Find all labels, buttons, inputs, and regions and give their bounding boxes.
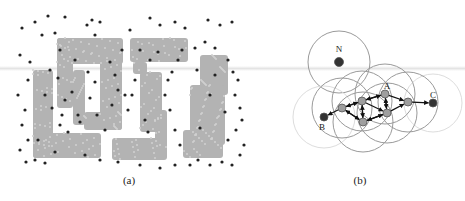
directed-edge <box>391 104 404 111</box>
noise-point <box>108 60 111 63</box>
noise-point <box>63 15 66 18</box>
noise-point <box>46 14 49 17</box>
noise-point <box>93 33 96 36</box>
node-n1 <box>338 104 346 112</box>
noise-point <box>218 23 221 26</box>
noise-point <box>90 18 93 21</box>
figure-canvas: NABC <box>0 0 465 201</box>
noise-point <box>63 98 66 101</box>
noise-point <box>88 96 91 99</box>
noise-point <box>238 153 241 156</box>
noise-point <box>24 160 27 163</box>
noise-point <box>23 108 26 111</box>
noise-point <box>176 58 179 61</box>
node-n2 <box>358 97 366 105</box>
noise-point <box>110 103 113 106</box>
node-n3 <box>359 118 367 126</box>
noise-point <box>138 163 141 166</box>
panel-a-point-cloud <box>16 14 245 169</box>
coverage-circles <box>293 31 462 152</box>
noise-point <box>234 128 237 131</box>
noise-point <box>48 68 51 71</box>
noise-point <box>180 48 183 51</box>
noise-point <box>66 130 69 133</box>
noise-point <box>166 78 169 81</box>
noise-point <box>168 108 171 111</box>
noise-point <box>28 60 31 63</box>
noise-point <box>206 18 209 21</box>
noise-point <box>238 106 241 109</box>
noise-point <box>20 123 23 126</box>
noise-point <box>183 26 186 29</box>
noise-point <box>83 153 86 156</box>
noise-point <box>26 138 29 141</box>
noise-point <box>226 138 229 141</box>
noise-point <box>120 48 123 51</box>
directed-edge <box>362 105 363 118</box>
noise-point <box>130 93 133 96</box>
noise-point <box>233 93 236 96</box>
node-n4 <box>383 109 391 117</box>
label-C: C <box>430 90 436 100</box>
noise-point <box>58 123 61 126</box>
noise-point <box>43 161 46 164</box>
noise-point <box>148 58 151 61</box>
noise-point <box>36 138 39 141</box>
label-A: A <box>384 81 391 91</box>
noise-point <box>43 93 46 96</box>
noise-point <box>220 160 223 163</box>
noise-point <box>33 158 36 161</box>
noise-point <box>163 93 166 96</box>
label-B: B <box>319 122 325 132</box>
noise-point <box>113 73 116 76</box>
noise-point <box>20 26 23 29</box>
noise-point <box>158 23 161 26</box>
noise-point <box>93 80 96 83</box>
noise-point <box>18 148 21 151</box>
noise-point <box>173 163 176 166</box>
noise-point <box>40 33 43 36</box>
noise-point <box>116 160 119 163</box>
node-B <box>320 113 328 121</box>
node-C <box>429 99 437 107</box>
node-n5 <box>404 98 412 106</box>
noise-point <box>18 53 21 56</box>
noise-point <box>242 143 245 146</box>
noise-point <box>73 58 76 61</box>
noise-point <box>143 118 146 121</box>
directed-edge <box>346 110 360 119</box>
noise-point <box>193 46 196 49</box>
noise-point <box>146 130 149 133</box>
directed-edge <box>389 95 404 100</box>
caption-b: (b) <box>354 174 367 186</box>
noise-point <box>223 110 226 113</box>
noise-point <box>128 28 131 31</box>
noise-point <box>173 128 176 131</box>
noise-point <box>60 113 63 116</box>
noise-point <box>226 58 229 61</box>
noise-point <box>16 93 19 96</box>
letter-region <box>183 130 223 158</box>
noise-point <box>26 78 29 81</box>
noise-point <box>98 20 101 23</box>
noise-point <box>170 70 173 73</box>
noise-point <box>98 158 101 161</box>
noise-point <box>236 78 239 81</box>
noise-point <box>156 50 159 53</box>
noise-point <box>203 40 206 43</box>
noise-point <box>103 128 106 131</box>
noise-point <box>56 76 59 79</box>
noise-point <box>53 150 56 153</box>
noise-point <box>78 120 81 123</box>
noise-point <box>208 93 211 96</box>
noise-point <box>86 70 89 73</box>
noise-point <box>33 20 36 23</box>
noise-point <box>133 78 136 81</box>
noise-point <box>198 126 201 129</box>
noise-point <box>213 73 216 76</box>
noise-point <box>58 48 61 51</box>
noise-point <box>53 31 56 34</box>
noise-point <box>116 88 119 91</box>
noise-point <box>208 163 211 166</box>
noise-point <box>173 20 176 23</box>
